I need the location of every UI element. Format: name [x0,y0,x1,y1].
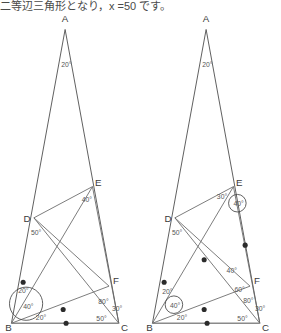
angle-label: 20° [61,61,72,68]
side-AB [11,29,65,323]
angle-label: 30° [112,305,123,312]
vertex-label-D: D [24,213,31,224]
angle-label: 50° [96,315,107,322]
figure-right-svg: A B C D E F 20° 30° 40° 50° 40° 60° 80° … [141,8,281,333]
angle-label: 30° [255,305,266,312]
angle-label-circled: 20° [18,287,29,294]
angle-label: 60° [234,286,245,293]
figure-right: A B C D E F 20° 30° 40° 50° 40° 60° 80° … [141,8,281,333]
vertex-label-A: A [203,13,210,24]
tick-dot [162,280,167,285]
angle-label: 20° [36,314,47,321]
tick-dot [64,321,69,326]
vertex-label-B: B [146,322,153,333]
angle-label: 20° [162,288,173,295]
vertex-label-C: C [262,322,269,333]
angle-label: 30° [217,193,228,200]
triangle-outline-left [11,29,118,323]
angle-labels-right: 20° 30° 40° 50° 40° 60° 80° 30° 50° 20° … [162,61,265,323]
angle-label-circled: 40° [23,303,34,310]
tick-dot [21,280,26,285]
tick-dot [202,257,207,262]
vertex-label-C: C [121,322,128,333]
angle-label: 50° [172,229,183,236]
vertex-label-B: B [5,322,12,333]
angle-label: 40° [82,196,93,203]
segment-DC [175,218,260,323]
tick-dot [205,321,210,326]
vertex-label-D: D [165,213,172,224]
triangle-outline-right [152,29,259,323]
vertex-label-A: A [62,13,69,24]
angle-label: 20° [177,314,188,321]
tick-dot [202,307,207,312]
angle-label: 50° [31,229,42,236]
tick-dot [243,243,248,248]
angle-labels-left: 20° 40° 50° 80° 30° 50° 20° 20° 40° [18,61,122,323]
angle-label-circled: 40° [170,302,181,309]
angle-label-circled: 40° [233,200,244,207]
segment-DF [34,218,109,286]
vertex-label-E: E [236,177,243,188]
angle-label: 40° [227,267,238,274]
vertex-label-F: F [254,275,260,286]
tick-dot [61,307,66,312]
side-AB [152,29,206,323]
segment-DC [34,218,119,323]
segment-DF [175,218,250,286]
angle-label: 80° [243,297,254,304]
angle-label: 80° [98,298,109,305]
figure-left-svg: A B C D E F 20° 40° 50° 80° 30° 50° 20° … [0,8,140,333]
angle-label: 50° [237,315,248,322]
figure-left: A B C D E F 20° 40° 50° 80° 30° 50° 20° … [0,8,140,333]
angle-label: 20° [202,61,213,68]
vertex-label-E: E [95,177,102,188]
vertex-label-F: F [113,275,119,286]
